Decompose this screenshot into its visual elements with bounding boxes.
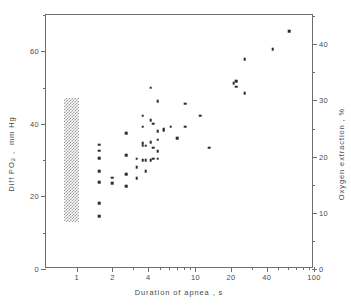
x-axis-tick-label: 10 [191, 273, 200, 282]
data-point [208, 147, 211, 150]
axis-tick [312, 72, 315, 73]
data-point [135, 177, 138, 180]
y-axis-right-title: Oxygen extraction , % [337, 108, 346, 200]
x-axis-tick-label: 20 [227, 273, 236, 282]
data-point [288, 30, 291, 33]
data-point [156, 150, 159, 153]
data-point [156, 139, 159, 142]
y-axis-right-tick-label: 30 [319, 96, 328, 105]
data-point [98, 157, 101, 160]
data-point [152, 123, 155, 126]
y-axis-left-tick-label: 20 [30, 192, 39, 201]
x-axis-tick-label: 100 [307, 273, 320, 282]
data-point [156, 157, 159, 160]
axis-tick [303, 267, 304, 270]
axis-tick [278, 267, 279, 270]
axis-tick [41, 269, 46, 270]
data-point [111, 176, 114, 179]
data-point [135, 166, 138, 169]
data-point [184, 102, 187, 105]
plot-frame: 0204060010203040124102040100 [45, 14, 313, 268]
data-point [144, 170, 147, 173]
axis-tick [267, 267, 268, 272]
data-point [152, 157, 155, 160]
axis-tick [312, 100, 317, 101]
axis-tick [43, 233, 46, 234]
data-point [125, 185, 128, 188]
data-point [149, 86, 152, 89]
axis-tick [160, 267, 161, 270]
data-point [176, 137, 179, 140]
axis-tick [309, 267, 310, 270]
data-point [243, 58, 246, 61]
data-point [243, 92, 246, 95]
axis-tick [312, 241, 315, 242]
data-point [98, 202, 101, 205]
data-point [98, 170, 101, 173]
data-point [235, 86, 238, 89]
data-point [169, 125, 172, 128]
data-point [149, 119, 152, 122]
axis-tick [312, 44, 317, 45]
axis-tick [184, 267, 185, 270]
axis-tick [195, 267, 196, 272]
data-point [184, 125, 187, 128]
axis-tick [148, 267, 149, 272]
data-point [98, 149, 101, 152]
y-axis-left-tick-label: 0 [35, 265, 39, 274]
data-point [98, 181, 101, 184]
axis-tick [133, 267, 134, 270]
y-axis-right-tick-label: 20 [319, 152, 328, 161]
x-axis-tick-label: 4 [146, 273, 150, 282]
axis-tick [41, 51, 46, 52]
x-axis-tick-label: 40 [262, 273, 271, 282]
axis-tick [288, 267, 289, 270]
x-axis-tick-label: 2 [110, 273, 114, 282]
data-point [98, 215, 101, 218]
data-point [235, 80, 238, 83]
x-axis-tick-label: 1 [75, 273, 79, 282]
axis-tick [77, 267, 78, 272]
data-point [156, 100, 159, 103]
data-point [199, 115, 202, 118]
data-point [111, 182, 114, 185]
axis-tick [252, 267, 253, 270]
data-point [149, 141, 152, 144]
data-point [156, 130, 159, 133]
data-point [141, 115, 144, 118]
data-point [272, 48, 275, 51]
axis-tick [296, 267, 297, 270]
axis-tick [314, 267, 315, 272]
data-point [98, 144, 101, 147]
control-range-band [64, 98, 79, 221]
data-point [125, 173, 128, 176]
data-point [125, 154, 128, 157]
axis-tick [43, 15, 46, 16]
data-point [162, 129, 165, 132]
y-axis-left-title: Diff PO2 , mm Hg [7, 116, 16, 191]
y-axis-right-tick-label: 10 [319, 208, 328, 217]
data-point [125, 132, 128, 135]
axis-tick [312, 157, 317, 158]
data-point [141, 125, 144, 128]
data-point [152, 147, 155, 150]
plot-area [46, 15, 312, 267]
axis-tick [177, 267, 178, 270]
axis-tick [312, 213, 317, 214]
axis-tick [112, 267, 113, 272]
scatter-plot-figure: Diff PO2 , mm Hg Oxygen extraction , % D… [0, 0, 351, 308]
data-point [135, 157, 138, 160]
y-axis-left-tick-label: 60 [30, 47, 39, 56]
axis-tick [190, 267, 191, 270]
data-point [144, 144, 147, 147]
data-point [144, 159, 147, 162]
axis-tick [312, 16, 315, 17]
y-axis-right-tick-label: 40 [319, 40, 328, 49]
axis-tick [41, 124, 46, 125]
x-axis-title: Duration of apnea , s [135, 288, 224, 297]
axis-tick [41, 196, 46, 197]
y-axis-left-tick-label: 40 [30, 119, 39, 128]
axis-tick [312, 185, 315, 186]
axis-tick [169, 267, 170, 270]
axis-tick [231, 267, 232, 272]
